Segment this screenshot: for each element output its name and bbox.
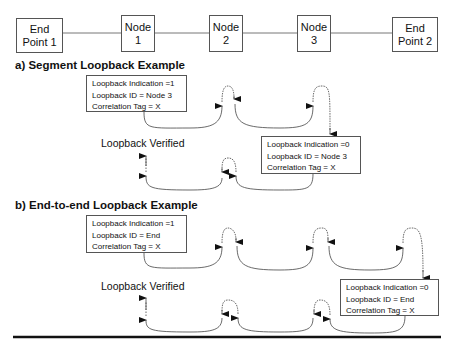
- loopback-indication: Loopback Indication =1: [92, 218, 181, 230]
- loopback-id: Loopback ID = Node 3: [267, 151, 355, 163]
- node-end-point-2: End Point 2: [392, 17, 438, 52]
- loopback-id: Loopback ID = Node 3: [92, 90, 181, 102]
- node-label-line1: End: [393, 22, 437, 35]
- segment-heading: a) Segment Loopback Example: [15, 59, 185, 71]
- node-label-line2: Point 2: [393, 35, 437, 48]
- correlation-tag: Correlation Tag = X: [92, 101, 181, 113]
- node-label-line1: Node: [298, 21, 330, 34]
- loopback-id: Loopback ID = End: [92, 230, 181, 242]
- node-1: Node 1: [121, 15, 155, 52]
- endtoend-request-box: Loopback Indication =1 Loopback ID = End…: [86, 215, 187, 253]
- segment-request-box: Loopback Indication =1 Loopback ID = Nod…: [86, 75, 187, 112]
- correlation-tag: Correlation Tag = X: [267, 162, 355, 174]
- endtoend-heading: b) End-to-end Loopback Example: [15, 199, 198, 211]
- node-2: Node 2: [209, 15, 243, 52]
- node-label-line1: Node: [210, 21, 242, 34]
- segment-reply-box: Loopback Indication =0 Loopback ID = Nod…: [261, 136, 361, 174]
- node-label-line2: 3: [298, 34, 330, 47]
- endtoend-verified-label: Loopback Verified: [101, 280, 184, 292]
- node-label-line2: 2: [210, 34, 242, 47]
- node-3: Node 3: [297, 15, 331, 52]
- loopback-indication: Loopback Indication =0: [267, 139, 355, 151]
- node-label-line2: Point 1: [17, 36, 62, 49]
- node-label-line1: End: [17, 23, 62, 36]
- loopback-id: Loopback ID = End: [346, 294, 433, 306]
- node-end-point-1: End Point 1: [16, 18, 63, 53]
- node-label-line2: 1: [122, 34, 154, 47]
- endtoend-reply-box: Loopback Indication =0 Loopback ID = End…: [340, 279, 439, 316]
- correlation-tag: Correlation Tag = X: [346, 305, 433, 317]
- loopback-indication: Loopback Indication =0: [346, 282, 433, 294]
- segment-verified-label: Loopback Verified: [101, 137, 184, 149]
- loopback-indication: Loopback Indication =1: [92, 78, 181, 90]
- node-label-line1: Node: [122, 21, 154, 34]
- correlation-tag: Correlation Tag = X: [92, 241, 181, 253]
